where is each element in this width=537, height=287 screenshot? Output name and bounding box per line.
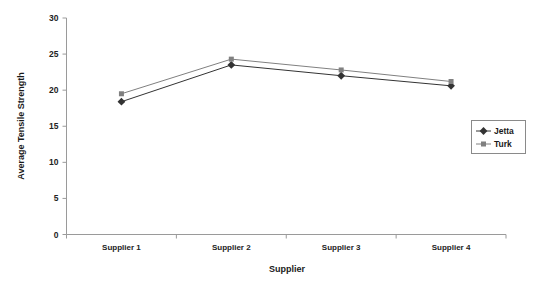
y-tick-label: 10 (49, 157, 59, 167)
y-tick-label: 5 (54, 193, 59, 203)
diamond-marker (118, 98, 126, 106)
diamond-marker (337, 72, 345, 80)
x-axis-category-labels: Supplier 1Supplier 2Supplier 3Supplier 4 (102, 243, 471, 252)
x-category-label: Supplier 3 (322, 243, 361, 252)
y-axis-title: Average Tensile Strength (16, 72, 26, 180)
data-series (118, 61, 455, 106)
y-tick-label: 25 (49, 49, 59, 59)
square-marker (339, 67, 344, 72)
y-tick-label: 30 (49, 13, 59, 23)
line-chart: 051015202530 Supplier 1Supplier 2Supplie… (0, 0, 537, 287)
series-line (121, 59, 451, 94)
y-tick-label: 15 (49, 121, 59, 131)
legend-label-jetta[interactable]: Jetta (494, 126, 514, 136)
diamond-marker (227, 61, 235, 69)
data-series-layer (118, 57, 455, 106)
square-marker (449, 79, 454, 84)
y-tick-label: 20 (49, 85, 59, 95)
y-axis-tick-labels: 051015202530 (49, 13, 59, 240)
x-category-label: Supplier 4 (432, 243, 471, 252)
x-axis-title: Supplier (269, 264, 306, 274)
data-series (119, 57, 454, 97)
chart-legend[interactable]: JettaTurk (472, 121, 526, 154)
x-axis-ticks (67, 235, 507, 239)
chart-container: 051015202530 Supplier 1Supplier 2Supplie… (0, 0, 537, 287)
legend-label-turk[interactable]: Turk (494, 139, 512, 149)
square-marker (119, 91, 124, 96)
square-marker (229, 57, 234, 62)
y-tick-label: 0 (54, 230, 59, 240)
square-marker (481, 142, 486, 147)
series-line (121, 65, 451, 102)
x-category-label: Supplier 1 (102, 243, 141, 252)
y-axis-ticks (63, 18, 67, 235)
x-category-label: Supplier 2 (212, 243, 251, 252)
